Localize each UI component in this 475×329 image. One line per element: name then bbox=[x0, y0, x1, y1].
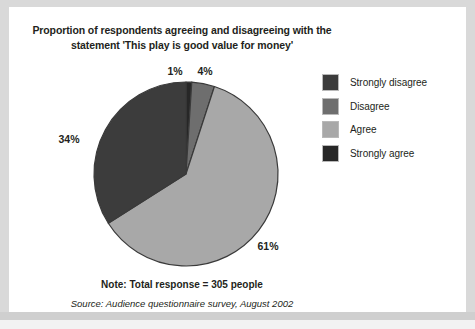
legend-item-strongly-disagree[interactable]: Strongly disagree bbox=[322, 71, 462, 95]
page-edge-band bbox=[0, 312, 475, 320]
pie-slice-label: 4% bbox=[197, 65, 213, 77]
pie-slice-label: 34% bbox=[58, 133, 80, 145]
legend-swatch-icon bbox=[322, 98, 339, 115]
legend-swatch-icon bbox=[322, 121, 339, 138]
legend-item-agree[interactable]: Agree bbox=[322, 118, 462, 142]
figure-panel: Proportion of respondents agreeing and d… bbox=[9, 7, 466, 312]
chart-note: Note: Total response = 305 people bbox=[27, 279, 337, 290]
legend-item-label: Strongly agree bbox=[350, 148, 414, 159]
legend-item-label: Strongly disagree bbox=[350, 77, 427, 88]
chart-source: Source: Audience questionnaire survey, A… bbox=[27, 298, 337, 309]
legend-swatch-icon bbox=[322, 74, 339, 91]
legend-item-disagree[interactable]: Disagree bbox=[322, 95, 462, 119]
chart-legend: Strongly disagree Disagree Agree Strongl… bbox=[322, 71, 462, 165]
pie-slice-label: 61% bbox=[257, 240, 279, 252]
pie-slice-label: 1% bbox=[167, 65, 183, 77]
legend-item-label: Disagree bbox=[350, 101, 390, 112]
legend-item-label: Agree bbox=[350, 124, 376, 135]
legend-item-strongly-agree[interactable]: Strongly agree bbox=[322, 142, 462, 166]
legend-swatch-icon bbox=[322, 145, 339, 162]
page-edge-band-lower bbox=[0, 320, 475, 329]
